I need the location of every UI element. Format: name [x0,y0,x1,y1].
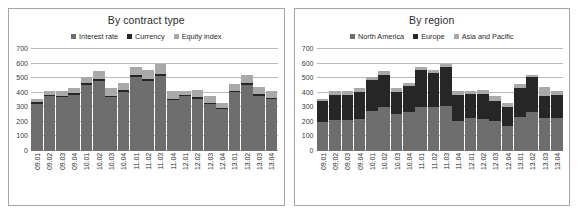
bar-column[interactable] [130,49,142,151]
bar-segment [266,91,278,98]
bar-column[interactable] [440,49,452,151]
y-axis-tick-label: 200 [16,117,28,124]
x-axis-tick-label: 11.04 [169,153,176,170]
bar-segment [68,95,80,151]
chart-panel-by-contract-type: By contract type Interest rate Currency … [8,8,285,206]
y-axis-tick-label: 400 [302,88,314,95]
bar-segment [440,67,452,106]
bar-column[interactable] [192,49,204,151]
x-axis-label-slot: 10.02 [93,151,105,197]
x-axis-tick-label: 09.04 [71,153,78,170]
plot-area-left: 0100200300400500600700 09.0109.0209.0309… [9,43,284,205]
bar-column[interactable] [477,49,489,151]
x-axis-tick-label: 13.03 [541,153,548,170]
bar-column[interactable] [415,49,427,151]
x-axis-tick-label: 09.04 [356,153,363,170]
bar-column[interactable] [539,49,551,151]
bar-segment [192,99,204,151]
bar-segment [502,126,514,151]
x-axis-tick-label: 11.02 [145,153,152,170]
bar-column[interactable] [378,49,390,151]
bar-column[interactable] [105,49,117,151]
x-axis-tick-label: 13.04 [268,153,275,170]
x-axis-label-slot: 12.02 [191,151,203,197]
bar-column[interactable] [403,49,415,151]
bar-segment [489,101,501,121]
legend-swatch-asia-and-pacific [454,34,459,39]
bar-column[interactable] [342,49,354,151]
bar-column[interactable] [329,49,341,151]
bar-column[interactable] [118,49,130,151]
bar-segment [155,76,167,151]
x-axis-tick-label: 10.03 [393,153,400,170]
y-axis-tick-label: 300 [16,103,28,110]
y-axis-tick-label: 300 [302,103,314,110]
bar-column[interactable] [428,49,440,151]
bar-column[interactable] [204,49,216,151]
bar-column[interactable] [56,49,68,151]
x-axis-label-slot: 10.01 [80,151,92,197]
bar-column[interactable] [229,49,241,151]
x-axis-label-slot: 12.01 [464,151,476,197]
bar-column[interactable] [526,49,538,151]
bar-segment [428,107,440,151]
figure-root: By contract type Interest rate Currency … [0,0,578,214]
legend-item-interest-rate: Interest rate [71,32,118,41]
x-axis-label-slot: 09.01 [31,151,43,197]
bar-segment [342,120,354,151]
bar-segment [415,107,427,151]
bar-segment [452,95,464,121]
bar-column[interactable] [317,49,329,151]
bar-column[interactable] [489,49,501,151]
y-axis-tick-label: 500 [302,74,314,81]
bar-column[interactable] [253,49,265,151]
bar-column[interactable] [266,49,278,151]
bar-column[interactable] [155,49,167,151]
bar-segment [342,95,354,119]
bar-segment [142,70,154,79]
x-axis-label-slot: 10.03 [390,151,402,197]
x-axis-tick-label: 09.02 [331,153,338,170]
bar-segment [241,75,253,83]
bar-column[interactable] [142,49,154,151]
bar-segment [179,96,191,151]
bar-segment [142,81,154,151]
bar-column[interactable] [93,49,105,151]
bar-column[interactable] [167,49,179,151]
bar-group-right [317,49,564,151]
bar-column[interactable] [81,49,93,151]
bar-column[interactable] [68,49,80,151]
x-axis-tick-label: 11.01 [418,153,425,170]
legend-swatch-interest-rate [71,34,76,39]
bar-segment [526,112,538,151]
bar-column[interactable] [241,49,253,151]
x-axis-tick-label: 13.02 [243,153,250,170]
bar-column[interactable] [465,49,477,151]
y-axis-tick-label: 0 [310,147,314,154]
bar-segment [253,87,265,95]
bar-segment [130,67,142,75]
bar-column[interactable] [551,49,563,151]
x-axis-tick-label: 10.01 [368,153,375,170]
x-axis-tick-label: 12.02 [194,153,201,170]
bar-column[interactable] [514,49,526,151]
x-axis-tick-label: 09.03 [344,153,351,170]
bar-column[interactable] [179,49,191,151]
bar-column[interactable] [31,49,43,151]
bar-column[interactable] [391,49,403,151]
bar-column[interactable] [452,49,464,151]
legend-swatch-equity-index [174,34,179,39]
bar-segment [118,92,130,151]
bar-column[interactable] [366,49,378,151]
bar-segment [354,92,366,118]
x-axis-label-slot: 12.02 [477,151,489,197]
legend-label-europe: Europe [421,32,445,41]
chart-legend-right: North America Europe Asia and Pacific [295,32,570,41]
bar-column[interactable] [44,49,56,151]
x-axis-label-slot: 11.03 [440,151,452,197]
bar-column[interactable] [216,49,228,151]
bar-column[interactable] [502,49,514,151]
bar-column[interactable] [354,49,366,151]
x-axis-tick-label: 12.04 [504,153,511,170]
legend-label-currency: Currency [135,32,165,41]
